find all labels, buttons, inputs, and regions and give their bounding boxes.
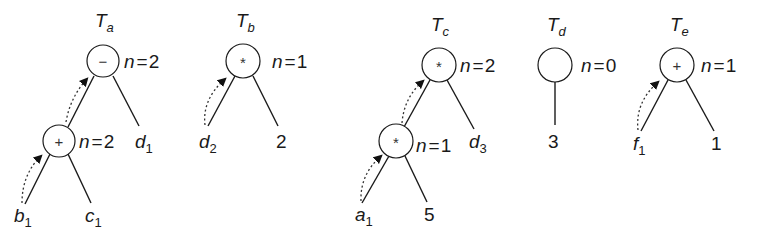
operator-symbol: +	[673, 57, 682, 74]
leaf-label: d1	[135, 131, 153, 156]
tree-te: Te + n=1 f1 1	[633, 14, 736, 158]
leaf-label: d3	[469, 131, 487, 156]
edge	[686, 80, 714, 131]
dotted-arrow	[402, 82, 422, 123]
operator-symbol: *	[240, 54, 246, 71]
edge	[641, 80, 668, 131]
leaf-label: 1	[711, 133, 722, 154]
tree-title-tb: Tb	[236, 10, 255, 35]
tree-title-te: Te	[670, 14, 689, 39]
empty-node	[538, 48, 572, 82]
operator-symbol: +	[55, 133, 64, 150]
edge	[208, 76, 235, 126]
leaf-label: a1	[355, 204, 373, 229]
leaf-label: 5	[424, 204, 435, 225]
count-label: n=1	[416, 135, 451, 156]
tree-tc: Tc * n=2 * n=1 a1 5 d3	[355, 14, 495, 229]
leaf-label: d2	[199, 131, 217, 156]
edge	[68, 76, 94, 127]
leaf-label: 3	[548, 131, 559, 152]
leaf-label: c1	[85, 205, 102, 230]
tree-tb: Tb * n=1 d2 2	[199, 10, 307, 156]
operator-symbol: *	[436, 58, 442, 75]
count-label: n=1	[272, 51, 307, 72]
count-label: n=1	[701, 55, 736, 76]
count-label: n=2	[124, 51, 159, 72]
tree-ta: Ta − n=2 + n=2 b1 c1 d1	[14, 10, 159, 230]
edge	[253, 76, 278, 126]
edge	[405, 156, 427, 202]
edge	[404, 80, 430, 127]
tree-title-td: Td	[547, 14, 567, 39]
edge	[113, 76, 139, 126]
tree-td: Td n=0 3	[538, 14, 616, 152]
dotted-arrow	[66, 80, 86, 122]
tree-title-ta: Ta	[95, 10, 114, 35]
leaf-label: b1	[14, 205, 32, 230]
edge	[362, 156, 389, 203]
operator-symbol: *	[393, 134, 399, 151]
leaf-label: f1	[633, 133, 646, 158]
tree-title-tc: Tc	[431, 14, 450, 39]
edge	[68, 154, 91, 203]
count-label: n=0	[581, 55, 616, 76]
count-label: n=2	[460, 55, 495, 76]
edge	[447, 80, 474, 129]
dotted-arrow	[361, 157, 380, 201]
expression-tree-diagram: Ta − n=2 + n=2 b1 c1 d1 Tb * n=1 d2 2	[0, 0, 761, 237]
operator-symbol: −	[99, 53, 108, 70]
leaf-label: 2	[276, 131, 287, 152]
count-label: n=2	[79, 131, 114, 152]
edge	[25, 154, 50, 204]
